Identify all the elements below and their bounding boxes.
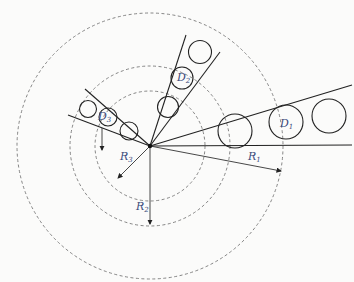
sector-d1-circle-1 — [218, 114, 252, 148]
label-d3-prime: D3′ — [97, 110, 113, 124]
label-d2: D2 — [176, 71, 191, 85]
label-r1: R1 — [247, 150, 261, 164]
sector-d2-circle-1 — [158, 97, 179, 118]
sector-d2 — [150, 35, 220, 146]
center-point — [148, 144, 152, 148]
sector-d1-circle-3 — [312, 99, 346, 133]
sector-d1-lower-line — [150, 145, 352, 146]
label-r3: R3 — [119, 150, 133, 164]
label-d1: D1 — [279, 117, 293, 131]
sector-d1 — [150, 85, 352, 148]
label-r2: R2 — [135, 200, 149, 214]
sector-d3-circle-1 — [120, 122, 138, 140]
sector-d2-circle-3 — [189, 41, 212, 64]
radius-arrows — [102, 128, 281, 224]
sector-d3-circle-3 — [80, 101, 97, 118]
sector-circle-diagram: D1 D2 D3′ R1 R2 R3 — [0, 0, 354, 282]
sector-d2-left-line — [150, 35, 186, 146]
radius-arrow-r1 — [150, 146, 281, 171]
